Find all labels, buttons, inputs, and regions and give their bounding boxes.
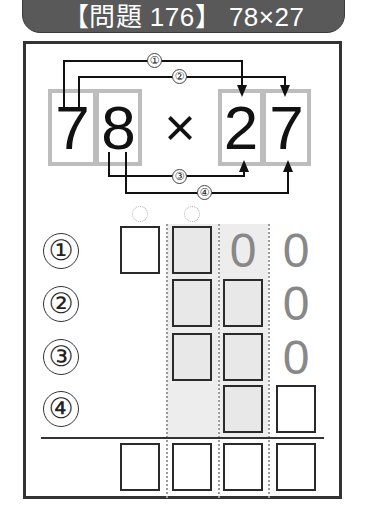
multiplier-ones-digit: 7 xyxy=(264,90,309,165)
multiplier-tens-digit: 2 xyxy=(220,90,262,165)
row-label-3: ③ xyxy=(43,339,79,375)
given-zero: 0 xyxy=(274,333,318,383)
sum-box-c3[interactable] xyxy=(223,443,263,491)
answer-box-r2-c3[interactable] xyxy=(223,279,263,327)
given-zero: 0 xyxy=(221,226,265,276)
answer-box-r3-c3[interactable] xyxy=(223,333,263,381)
row-label-4: ④ xyxy=(43,391,79,427)
sum-box-c1[interactable] xyxy=(120,443,160,491)
operator-sign: × xyxy=(150,90,210,165)
row-label-2: ② xyxy=(43,286,79,322)
answer-box-r4-c3[interactable] xyxy=(223,385,263,433)
answer-box-r1-c2[interactable] xyxy=(172,226,212,274)
sum-box-c2[interactable] xyxy=(172,443,212,491)
given-zero: 0 xyxy=(274,226,318,276)
answer-box-r2-c2[interactable] xyxy=(172,279,212,327)
arrow-label-3: ③ xyxy=(172,169,187,184)
row-label-1: ① xyxy=(43,233,79,269)
arrow-label-1: ① xyxy=(147,53,162,68)
carry-circle-hundreds[interactable] xyxy=(184,206,200,222)
arrow-label-4: ④ xyxy=(197,185,212,200)
answer-box-r4-c4[interactable] xyxy=(276,385,316,433)
carry-circle-thousands[interactable] xyxy=(132,206,148,222)
arrow-label-2: ② xyxy=(172,69,187,84)
answer-box-r3-c2[interactable] xyxy=(172,333,212,381)
multiplicand-ones-digit: 8 xyxy=(97,90,140,165)
sum-line xyxy=(41,437,324,439)
sum-box-c4[interactable] xyxy=(276,443,316,491)
answer-box-r1-c1[interactable] xyxy=(120,226,160,274)
multiplicand-tens-digit: 7 xyxy=(50,90,95,165)
given-zero: 0 xyxy=(274,279,318,329)
